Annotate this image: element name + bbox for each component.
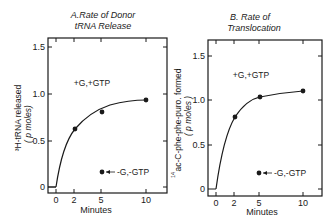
panel-b-point-2min <box>233 115 238 120</box>
panel-a-ytick-1.5: 1.5 <box>32 42 45 52</box>
panel-a-y-axis-label: ³H-tRNA released ( p moles) <box>13 84 33 151</box>
panel-b-title-line1: B. Rate of <box>230 12 272 22</box>
panel-b-ytick-0: 0 <box>200 184 205 194</box>
panel-a-ytick-0: 0 <box>40 182 45 192</box>
panel-b-x-axis-label: Minutes <box>246 207 278 217</box>
panel-b-annotation-minus: -G,-GTP <box>274 168 306 178</box>
panel-a-xtick-5: 5 <box>98 195 103 205</box>
panel-b-xtick-2: 2 <box>231 198 236 208</box>
panel-a-point-10min <box>144 98 149 103</box>
panel-a-frame <box>48 38 167 193</box>
panel-a-annotation-minus: -G,-GTP <box>117 167 149 177</box>
panel-a-point-control <box>100 170 105 175</box>
panel-b-point-10min <box>301 89 306 94</box>
panel-b-ylabel-line1: ac-C-phe-phe-puro. formed <box>173 68 183 171</box>
panel-b-ytick-1.0: 1.0 <box>192 95 205 105</box>
panel-a-ylabel-line2: ( p moles) <box>23 105 33 143</box>
panel-a-title-line2: tRNA Release <box>75 21 132 31</box>
panel-a: A.Rate of Donor tRNA Release 1.5 1 <box>13 10 167 215</box>
figure: A.Rate of Donor tRNA Release 1.5 1 <box>0 0 329 222</box>
panel-a-ytick-1.0: 1.0 <box>32 89 45 99</box>
panel-b-ytick-0.5: 0.5 <box>192 140 205 150</box>
panel-a-ytick-0.5: 0.5 <box>32 136 45 146</box>
panel-a-point-2min <box>73 127 78 132</box>
panel-a-y-ticks <box>48 38 167 193</box>
panel-b-xtick-0: 0 <box>213 198 218 208</box>
panel-b-y-axis-label: ac-C-phe-phe-puro. formed 14 ( p moles ) <box>170 68 193 178</box>
panel-a-x-axis-label: Minutes <box>80 205 112 215</box>
panel-b-ytick-1.5: 1.5 <box>192 51 205 61</box>
panel-b-annotation-plus: +G,+GTP <box>233 70 270 80</box>
panel-b-xtick-10: 10 <box>298 198 308 208</box>
panel-a-xtick-2: 2 <box>71 195 76 205</box>
panel-a-xtick-0: 0 <box>53 195 58 205</box>
panel-a-xtick-10: 10 <box>141 195 151 205</box>
panel-b-ylabel-superscript: 14 <box>170 172 176 178</box>
panel-b-ylabel-line2: ( p moles ) <box>183 96 193 136</box>
panel-a-annotation-plus: +G,+GTP <box>74 78 111 88</box>
panel-b-title-line2: Translocation <box>227 23 280 33</box>
panel-a-ylabel-line1: ³H-tRNA released <box>13 84 23 151</box>
panel-b-point-control <box>257 171 262 176</box>
panel-b: B. Rate of Translocation 1.5 1.0 0.5 0 0 <box>170 12 322 217</box>
panel-a-point-5min <box>100 110 105 115</box>
panel-b-point-5min <box>258 95 263 100</box>
panel-a-title-line1: A.Rate of Donor <box>70 10 137 20</box>
